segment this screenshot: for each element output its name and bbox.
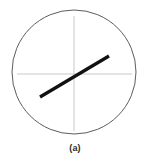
diagram-canvas — [0, 0, 150, 160]
figure-caption: (a) — [0, 142, 150, 154]
figure-container: (a) — [0, 0, 150, 160]
